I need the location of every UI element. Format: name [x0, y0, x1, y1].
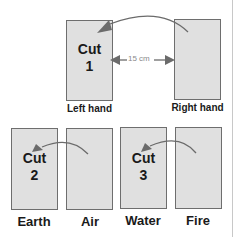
double-arrow-icon	[110, 55, 175, 65]
curved-arrow-icon	[97, 16, 188, 33]
curved-arrow-icon	[32, 142, 88, 154]
arrows-layer	[0, 0, 236, 237]
curved-arrow-icon	[141, 141, 196, 153]
